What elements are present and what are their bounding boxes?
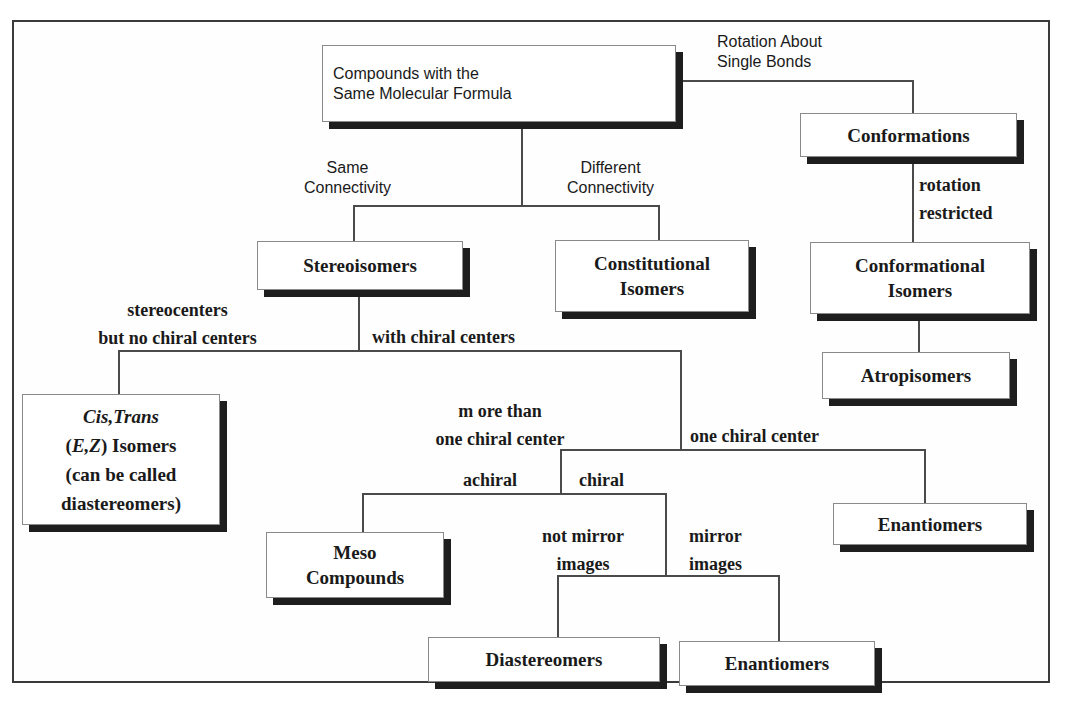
node-text: Stereoisomers <box>303 253 417 278</box>
connector-chiral-stem <box>665 493 667 576</box>
edge-label-different-connectivity: Different Connectivity <box>548 158 673 198</box>
label-line: Connectivity <box>548 178 673 198</box>
node-enantiomers-one-center: Enantiomers <box>833 503 1027 545</box>
node-text-row: (E,Z) Isomers <box>66 431 177 460</box>
label-line: Rotation About <box>717 32 822 52</box>
label-line: not mirror <box>518 522 648 550</box>
edge-label-rotation-single-bonds: Rotation About Single Bonds <box>717 32 822 72</box>
node-text: Isomers <box>888 278 952 303</box>
node-diastereomers: Diastereomers <box>428 637 660 682</box>
node-text: Cis,Trans <box>83 402 159 431</box>
node-text: ) Isomers <box>101 435 176 456</box>
edge-label-achiral: achiral <box>463 468 517 493</box>
label-line: but no chiral centers <box>60 324 295 352</box>
connector-to-constitutional <box>658 205 660 241</box>
label-line: images <box>518 550 648 578</box>
node-enantiomers-mirror: Enantiomers <box>679 641 875 686</box>
node-text: Isomers <box>620 276 684 301</box>
node-text: Enantiomers <box>725 651 830 676</box>
node-text: Compounds <box>306 565 404 590</box>
label-line: stereocenters <box>60 296 295 324</box>
node-text: diastereomers) <box>61 489 181 518</box>
node-text: Enantiomers <box>878 512 983 537</box>
label-line: Same <box>285 158 410 178</box>
edge-label-with-chiral-centers: with chiral centers <box>372 325 515 350</box>
connector-to-enantiomers-one-center <box>924 449 926 504</box>
node-text: Compounds with the <box>333 64 479 84</box>
edge-label-stereocenters-no-chiral: stereocenters but no chiral centers <box>60 296 295 352</box>
connector-connectivity-split <box>353 205 659 207</box>
label-line: images <box>689 550 742 578</box>
label-line: Different <box>548 158 673 178</box>
label-line: with chiral centers <box>372 325 515 350</box>
node-constitutional-isomers: Constitutional Isomers <box>555 240 749 312</box>
connector-root-to-conformations-v <box>912 80 914 114</box>
node-text: Conformational <box>855 253 985 278</box>
connector-center-count-split <box>560 449 925 451</box>
connector-to-diastereomers <box>557 575 559 638</box>
label-line: one chiral center <box>405 425 595 453</box>
node-text: Constitutional <box>594 251 710 276</box>
connector-conformational-to-atropisomers <box>918 321 920 353</box>
edge-label-one-chiral-center: one chiral center <box>690 424 819 449</box>
label-line: chiral <box>579 468 624 493</box>
connector-achiral-chiral-split <box>362 493 666 495</box>
edge-label-same-connectivity: Same Connectivity <box>285 158 410 198</box>
node-text: E,Z <box>72 435 101 456</box>
connector-with-chiral-stem <box>680 350 682 450</box>
node-text: Diastereomers <box>486 647 603 672</box>
connector-more-than-one-stem <box>560 449 562 494</box>
edge-label-rotation-restricted: rotation restricted <box>919 171 993 227</box>
node-meso-compounds: Meso Compounds <box>266 532 444 598</box>
connector-to-meso <box>362 493 364 533</box>
node-text: Same Molecular Formula <box>333 84 512 104</box>
connector-root-stem <box>521 123 523 206</box>
node-compounds-same-formula: Compounds with the Same Molecular Formul… <box>322 45 676 122</box>
label-line: mirror <box>689 522 742 550</box>
connector-stereoisomers-stem <box>358 297 360 351</box>
node-cis-trans-isomers: Cis,Trans (E,Z) Isomers (can be called d… <box>22 394 220 525</box>
label-line: m ore than <box>405 397 595 425</box>
label-line: Connectivity <box>285 178 410 198</box>
node-stereoisomers: Stereoisomers <box>257 241 463 290</box>
connector-root-to-conformations-h <box>683 80 913 82</box>
node-conformational-isomers: Conformational Isomers <box>810 242 1030 314</box>
connector-to-enantiomers-mirror <box>778 575 780 642</box>
node-text: (can be called <box>66 460 177 489</box>
label-line: restricted <box>919 199 993 227</box>
label-line: one chiral center <box>690 424 819 449</box>
node-text: Meso <box>333 540 376 565</box>
edge-label-more-than-one-center: m ore than one chiral center <box>405 397 595 453</box>
node-text: Atropisomers <box>861 363 971 388</box>
label-line: rotation <box>919 171 993 199</box>
edge-label-mirror-images: mirror images <box>689 522 742 578</box>
node-atropisomers: Atropisomers <box>822 352 1010 399</box>
label-line: achiral <box>463 468 517 493</box>
edge-label-not-mirror-images: not mirror images <box>518 522 648 578</box>
connector-to-stereoisomers <box>353 205 355 241</box>
node-text: Conformations <box>847 123 969 148</box>
connector-conformations-to-conformational <box>912 164 914 243</box>
edge-label-chiral: chiral <box>579 468 624 493</box>
connector-to-cis-trans <box>118 350 120 395</box>
label-line: Single Bonds <box>717 52 822 72</box>
node-conformations: Conformations <box>800 113 1017 157</box>
